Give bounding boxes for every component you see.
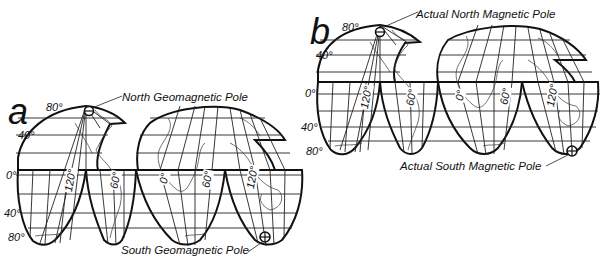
panel-letter-b: b: [310, 14, 330, 50]
south-geomagnetic-pole-icon: [260, 232, 270, 242]
lat-label-0: 0°: [6, 170, 17, 181]
actual-south-magnetic-pole-label: Actual South Magnetic Pole: [400, 160, 541, 172]
panel-b: b 80° 40° 0° 40° 80° 120° 60° 0° 60° 120…: [300, 0, 607, 185]
world-map-a: [0, 88, 310, 263]
panel-a: a 80° 40° 0° 40° 80° 120° 60° 0° 60° 120…: [0, 88, 310, 263]
lat-label-80n: 80°: [342, 22, 359, 33]
lat-label-80n: 80°: [46, 102, 63, 113]
lat-label-40n: 40°: [316, 50, 333, 61]
lat-label-40n: 40°: [18, 130, 35, 141]
lat-label-0: 0°: [305, 88, 316, 99]
actual-north-magnetic-pole-icon: [376, 28, 385, 37]
lat-label-80s: 80°: [8, 232, 25, 243]
panel-letter-a: a: [8, 94, 28, 130]
north-geomagnetic-pole-icon: [85, 107, 94, 116]
lat-label-40s: 40°: [301, 122, 318, 133]
north-geomagnetic-pole-label: North Geomagnetic Pole: [122, 91, 248, 103]
lat-label-40s: 40°: [4, 208, 21, 219]
lon-label-0: 0°: [454, 88, 467, 102]
actual-south-magnetic-pole-icon: [567, 146, 577, 156]
south-geomagnetic-pole-label: South Geomagnetic Pole: [121, 244, 249, 256]
actual-north-magnetic-pole-label: Actual North Magnetic Pole: [416, 8, 555, 20]
lon-label-0: 0°: [158, 171, 171, 185]
lat-label-80s: 80°: [306, 146, 323, 157]
